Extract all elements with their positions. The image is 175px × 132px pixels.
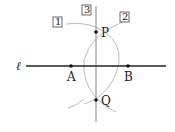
perpendicular-bisector-diagram: ℓ A B P Q 1 3 2 bbox=[0, 0, 175, 132]
point-p-label: P bbox=[101, 26, 109, 40]
arc-1 bbox=[66, 23, 119, 104]
point-a bbox=[69, 64, 73, 68]
point-q-label: Q bbox=[101, 94, 111, 108]
point-b bbox=[126, 64, 130, 68]
point-b-label: B bbox=[124, 70, 133, 84]
point-q bbox=[94, 98, 98, 102]
step-3-label: 3 bbox=[84, 4, 90, 15]
step-1-label: 1 bbox=[55, 16, 61, 27]
line-l-label: ℓ bbox=[16, 59, 21, 73]
step-2-label: 2 bbox=[122, 11, 128, 22]
arc-1-lower bbox=[68, 99, 84, 108]
point-a-label: A bbox=[66, 70, 76, 84]
point-p bbox=[94, 30, 98, 34]
